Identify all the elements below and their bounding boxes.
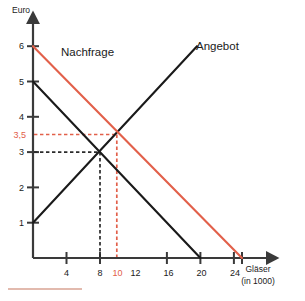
x-tick-label-8: 8: [97, 268, 102, 278]
x-tick-label-4: 4: [64, 268, 69, 278]
x-tick-label-20: 20: [196, 268, 206, 278]
x-tick-label-12: 12: [130, 268, 140, 278]
y-tick-label-5: 5: [19, 77, 24, 87]
supply-demand-chart: 1 2 3 4 5 6 3,5 4 8 12 16 20 24 10 Euro …: [0, 0, 305, 301]
x-tick-label-24: 24: [230, 268, 240, 278]
y-tick-label-3: 3: [19, 147, 24, 157]
y-tick-label-2: 2: [19, 183, 24, 193]
y-axis-title: Euro: [12, 5, 30, 15]
supply-curve-label: Angebot: [196, 40, 240, 52]
chart-canvas: 1 2 3 4 5 6 3,5 4 8 12 16 20 24 10 Euro …: [0, 0, 305, 301]
x-tick-label-16: 16: [163, 268, 173, 278]
y-tick-label-highlight-3-5: 3,5: [13, 130, 26, 140]
y-tick-label-4: 4: [19, 112, 24, 122]
x-axis-title-line1: Gläser: [245, 264, 270, 274]
supply-curve-line: [33, 46, 197, 223]
equilibrium-guides-black: [34, 152, 100, 257]
y-tick-label-6: 6: [19, 41, 24, 51]
x-axis-title-line2: (in 1000): [241, 276, 275, 286]
demand-curve-label: Nachfrage: [61, 46, 114, 58]
x-tick-label-highlight-10: 10: [112, 268, 122, 278]
y-tick-label-1: 1: [19, 218, 24, 228]
